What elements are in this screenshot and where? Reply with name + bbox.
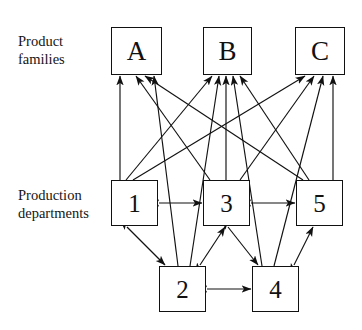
edge-5-to-B [240,76,309,180]
edge-2-to-B [190,76,219,266]
node-department-4[interactable]: 4 [252,266,299,312]
edge-2-to-A [154,76,178,266]
node-product-family-b[interactable]: B [203,27,252,75]
edge-4-to-C [274,76,323,266]
edge-1-to-2 [127,227,165,265]
label-product-families: Product families [18,33,65,68]
label-production-departments: Production departments [18,187,89,222]
node-department-5[interactable]: 5 [296,180,343,226]
node-department-1[interactable]: 1 [111,180,158,226]
diagram-canvas: Product families Production departments … [0,0,362,330]
node-department-2[interactable]: 2 [159,266,206,312]
edge-3-to-C [240,76,314,180]
node-department-3[interactable]: 3 [203,180,250,226]
node-product-family-a[interactable]: A [111,27,162,75]
edge-3-to-4 [228,227,258,265]
node-product-family-c[interactable]: C [295,27,345,75]
edge-4-to-5 [294,227,313,265]
edge-2-to-3 [200,227,225,265]
